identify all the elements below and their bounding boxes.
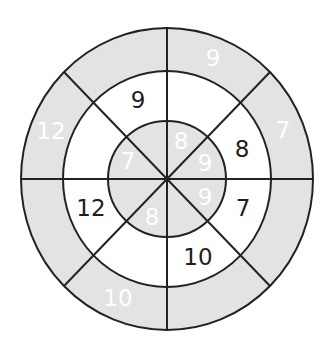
inner-cell: 8 (145, 204, 160, 230)
middle-cell: 12 (76, 195, 105, 221)
inner-cell: 7 (121, 148, 136, 174)
middle-cell: 10 (183, 244, 212, 270)
outer-cell: 9 (206, 45, 221, 71)
inner-cell: 9 (198, 150, 213, 176)
middle-cell: 9 (131, 87, 146, 113)
outer-cell: 12 (36, 118, 65, 144)
middle-cell: 8 (235, 136, 250, 162)
outer-cell: 7 (276, 117, 291, 143)
inner-cell: 9 (198, 184, 213, 210)
sector-dividers (21, 28, 313, 330)
inner-cell: 8 (174, 128, 189, 154)
middle-cell: 7 (236, 195, 251, 221)
number-wheel-diagram: 9 7 10 12 8 7 10 12 9 8 9 9 8 7 (0, 0, 332, 356)
outer-cell: 10 (103, 285, 132, 311)
